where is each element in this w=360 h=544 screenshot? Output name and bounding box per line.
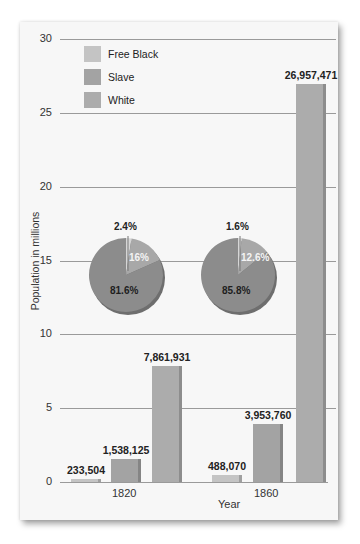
bar-value-label: 7,861,931	[127, 351, 207, 363]
legend-item-slave: Slave	[84, 69, 134, 85]
pie-label-free-black: 1.6%	[226, 221, 249, 232]
pie-label-white: 81.6%	[110, 285, 138, 296]
gridline	[60, 334, 336, 335]
legend-label: White	[108, 94, 135, 106]
legend-item-free-black: Free Black	[84, 46, 158, 62]
bar-white-1820	[152, 366, 182, 482]
legend-swatch	[84, 46, 101, 62]
pie-label-slave: 16%	[129, 252, 149, 263]
gridline	[60, 39, 336, 40]
pie-chart-1860	[199, 236, 281, 320]
legend-label: Free Black	[108, 48, 158, 60]
pie-chart-1820	[87, 236, 169, 320]
gridline	[60, 187, 336, 188]
bar-value-label: 26,957,471	[271, 69, 351, 81]
pie-label-white: 85.8%	[222, 285, 250, 296]
legend-swatch	[84, 92, 101, 108]
bar-free-black-1860	[212, 475, 242, 482]
x-axis-label: Year	[218, 498, 240, 510]
legend-item-white: White	[84, 92, 135, 108]
gridline	[60, 482, 328, 483]
y-tick-label: 5	[32, 401, 52, 413]
pie-label-free-black: 2.4%	[114, 221, 137, 232]
x-tick-label: 1860	[254, 487, 278, 499]
x-tick-label: 1820	[112, 487, 136, 499]
y-tick-label: 15	[32, 254, 52, 266]
bar-chart: Population in millions Year 051015202530…	[0, 0, 360, 544]
gridline	[60, 113, 336, 114]
y-tick-label: 20	[32, 180, 52, 192]
y-tick-label: 25	[32, 106, 52, 118]
y-tick-label: 30	[32, 32, 52, 44]
bar-white-1860	[296, 84, 326, 482]
y-tick-label: 0	[32, 475, 52, 487]
legend-swatch	[84, 69, 101, 85]
bar-slave-1820	[111, 459, 141, 482]
y-tick-label: 10	[32, 327, 52, 339]
pie-label-slave: 12.6%	[241, 252, 269, 263]
bar-slave-1860	[253, 424, 283, 482]
legend-label: Slave	[108, 71, 134, 83]
bar-free-black-1820	[71, 479, 101, 482]
